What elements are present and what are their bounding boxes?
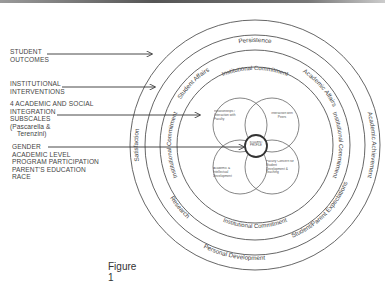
ring-label-commitment-top-inner: Institutional Commitment: [221, 65, 290, 77]
subscale-faculty-interaction: Relationships / Interaction with Faculty: [214, 110, 246, 124]
figure-caption: Figure 1: [108, 261, 136, 283]
ring-label-personal-development: Personal Development: [203, 242, 266, 262]
ring-label-persistence: Persistence: [238, 36, 273, 44]
ring-label-academic-achievement: Academic Achievement: [366, 111, 378, 179]
input-student-outcomes: STUDENTOUTCOMES: [10, 48, 49, 63]
subscale-faculty-concern: Faculty Concern for Student Development …: [266, 160, 294, 178]
ring-label-student-affairs: Student Affairs: [176, 66, 210, 100]
ring-label-satisfaction: Satisfaction: [132, 128, 140, 162]
subscale-academic-development: Academic & Intellectual Development: [213, 167, 237, 181]
input-demographics: GENDERACADEMIC LEVELPROGRAM PARTICIPATIO…: [12, 143, 99, 181]
input-institutional-interventions: INSTITUTIONALINTERVENTIONS: [10, 80, 65, 95]
subscale-peer-interaction: Interaction with Peers: [270, 112, 294, 124]
ring-label-research: Research: [169, 194, 192, 219]
center-label: STUDENT PROFILE: [247, 141, 265, 151]
input-integration-subscales: 4 ACADEMIC AND SOCIALINTEGRATIONSUBSCALE…: [10, 100, 93, 138]
